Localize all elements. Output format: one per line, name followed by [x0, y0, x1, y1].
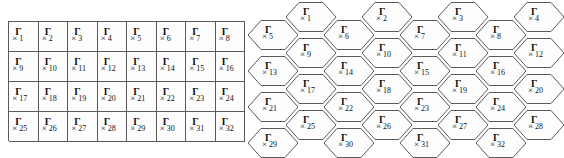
- cell-label: Γ×26: [42, 117, 64, 137]
- gamma-symbol: Γ: [74, 117, 80, 127]
- x-symbol: ×: [12, 124, 17, 133]
- hex-cell-32[interactable]: Γ×32: [476, 128, 526, 158]
- gamma-symbol: Γ: [222, 87, 228, 97]
- hex-cell-30[interactable]: Γ×30: [324, 128, 374, 158]
- cell-label: Γ×5: [130, 27, 152, 47]
- cell-index-subscript: 19: [78, 95, 86, 103]
- cell-index-subscript: 1: [19, 35, 23, 43]
- square-cell-22[interactable]: Γ×22: [157, 82, 187, 112]
- hex-outline: [324, 129, 374, 158]
- gamma-symbol: Γ: [163, 87, 169, 97]
- cell-index-subscript: 22: [167, 95, 175, 103]
- gamma-symbol: Γ: [15, 57, 21, 67]
- cell-index-subscript: 27: [78, 125, 86, 133]
- cell-index-subscript: 12: [108, 65, 116, 73]
- square-grid-row: Γ×25Γ×26Γ×27Γ×28Γ×29Γ×30Γ×31Γ×32: [9, 112, 245, 142]
- cell-index-subscript: 31: [196, 125, 204, 133]
- x-symbol: ×: [189, 64, 194, 73]
- gamma-symbol: Γ: [163, 57, 169, 67]
- cell-label: Γ×31: [189, 117, 211, 137]
- hex-outline: [476, 129, 526, 158]
- gamma-symbol: Γ: [45, 87, 51, 97]
- square-cell-21[interactable]: Γ×21: [127, 82, 157, 112]
- square-cell-5[interactable]: Γ×5: [127, 22, 157, 52]
- square-cell-18[interactable]: Γ×18: [39, 82, 69, 112]
- square-cell-10[interactable]: Γ×10: [39, 52, 69, 82]
- square-cell-7[interactable]: Γ×7: [186, 22, 216, 52]
- x-symbol: ×: [71, 124, 76, 133]
- hex-cell-29[interactable]: Γ×29: [248, 128, 298, 158]
- cell-index-subscript: 8: [226, 35, 230, 43]
- square-cell-2[interactable]: Γ×2: [39, 22, 69, 52]
- gamma-symbol: Γ: [133, 117, 139, 127]
- square-cell-3[interactable]: Γ×3: [68, 22, 98, 52]
- x-symbol: ×: [71, 94, 76, 103]
- gamma-symbol: Γ: [15, 87, 21, 97]
- cell-label: Γ×19: [71, 87, 93, 107]
- square-cell-6[interactable]: Γ×6: [157, 22, 187, 52]
- gamma-symbol: Γ: [45, 117, 51, 127]
- square-cell-14[interactable]: Γ×14: [157, 52, 187, 82]
- square-cell-19[interactable]: Γ×19: [68, 82, 98, 112]
- gamma-symbol: Γ: [104, 117, 110, 127]
- square-cell-32[interactable]: Γ×32: [216, 112, 246, 142]
- square-cell-20[interactable]: Γ×20: [98, 82, 128, 112]
- x-symbol: ×: [219, 34, 224, 43]
- cell-index-subscript: 13: [137, 65, 145, 73]
- square-cell-11[interactable]: Γ×11: [68, 52, 98, 82]
- square-cell-16[interactable]: Γ×16: [216, 52, 246, 82]
- square-cell-23[interactable]: Γ×23: [186, 82, 216, 112]
- square-grid-row: Γ×1Γ×2Γ×3Γ×4Γ×5Γ×6Γ×7Γ×8: [9, 22, 245, 52]
- cell-label: Γ×1: [12, 27, 34, 47]
- hex-shape: [400, 128, 450, 158]
- square-cell-28[interactable]: Γ×28: [98, 112, 128, 142]
- x-symbol: ×: [42, 124, 47, 133]
- square-cell-24[interactable]: Γ×24: [216, 82, 246, 112]
- gamma-symbol: Γ: [45, 57, 51, 67]
- hex-outline: [400, 129, 450, 158]
- square-cell-1[interactable]: Γ×1: [9, 22, 39, 52]
- square-cell-8[interactable]: Γ×8: [216, 22, 246, 52]
- cell-index-subscript: 14: [167, 65, 175, 73]
- square-cell-4[interactable]: Γ×4: [98, 22, 128, 52]
- hex-cell-31[interactable]: Γ×31: [400, 128, 450, 158]
- gamma-symbol: Γ: [74, 87, 80, 97]
- square-cell-26[interactable]: Γ×26: [39, 112, 69, 142]
- square-cell-30[interactable]: Γ×30: [157, 112, 187, 142]
- square-grid: Γ×1Γ×2Γ×3Γ×4Γ×5Γ×6Γ×7Γ×8Γ×9Γ×10Γ×11Γ×12Γ…: [8, 21, 245, 141]
- square-cell-12[interactable]: Γ×12: [98, 52, 128, 82]
- gamma-symbol: Γ: [222, 27, 228, 37]
- cell-label: Γ×18: [42, 87, 64, 107]
- hex-shape: [248, 128, 298, 158]
- cell-label: Γ×29: [130, 117, 152, 137]
- cell-label: Γ×3: [71, 27, 93, 47]
- square-cell-29[interactable]: Γ×29: [127, 112, 157, 142]
- gamma-symbol: Γ: [163, 117, 169, 127]
- square-cell-17[interactable]: Γ×17: [9, 82, 39, 112]
- cell-label: Γ×24: [219, 87, 241, 107]
- x-symbol: ×: [189, 34, 194, 43]
- x-symbol: ×: [160, 34, 165, 43]
- square-cell-25[interactable]: Γ×25: [9, 112, 39, 142]
- gamma-symbol: Γ: [104, 87, 110, 97]
- hex-grid: Γ×1Γ×2Γ×3Γ×4Γ×5Γ×6Γ×7Γ×8Γ×9Γ×10Γ×11Γ×12Γ…: [258, 2, 488, 152]
- hex-shape: [324, 128, 374, 158]
- cell-label: Γ×14: [160, 57, 182, 77]
- x-symbol: ×: [189, 94, 194, 103]
- square-cell-15[interactable]: Γ×15: [186, 52, 216, 82]
- square-cell-9[interactable]: Γ×9: [9, 52, 39, 82]
- square-cell-31[interactable]: Γ×31: [186, 112, 216, 142]
- x-symbol: ×: [101, 34, 106, 43]
- x-symbol: ×: [130, 94, 135, 103]
- cell-label: Γ×21: [130, 87, 152, 107]
- x-symbol: ×: [101, 64, 106, 73]
- gamma-symbol: Γ: [192, 27, 198, 37]
- gamma-symbol: Γ: [192, 57, 198, 67]
- square-cell-27[interactable]: Γ×27: [68, 112, 98, 142]
- cell-index-subscript: 16: [226, 65, 234, 73]
- square-cell-13[interactable]: Γ×13: [127, 52, 157, 82]
- cell-label: Γ×12: [101, 57, 123, 77]
- cell-label: Γ×9: [12, 57, 34, 77]
- cell-index-subscript: 9: [19, 65, 23, 73]
- cell-index-subscript: 7: [196, 35, 200, 43]
